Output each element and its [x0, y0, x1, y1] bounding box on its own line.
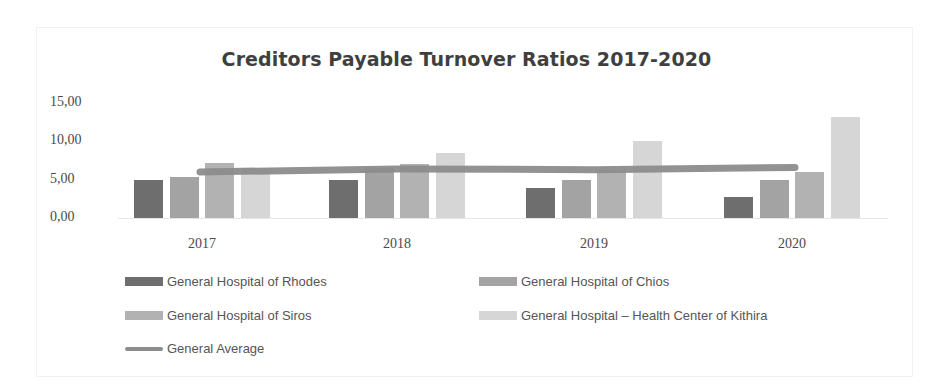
- legend-swatch-chios: [479, 277, 517, 286]
- legend-item-kithira: General Hospital – Health Center of Kith…: [479, 308, 767, 323]
- legend-swatch-rhodes: [125, 277, 163, 286]
- legend-label-kithira: General Hospital – Health Center of Kith…: [521, 308, 767, 323]
- legend-label-siros: General Hospital of Siros: [167, 308, 312, 323]
- average-line: [0, 0, 933, 390]
- legend-label-rhodes: General Hospital of Rhodes: [167, 274, 327, 289]
- x-tick-2017: 2017: [162, 236, 242, 252]
- legend-swatch-siros: [125, 311, 163, 320]
- legend-item-chios: General Hospital of Chios: [479, 274, 669, 289]
- legend-label-chios: General Hospital of Chios: [521, 274, 669, 289]
- legend-item-siros: General Hospital of Siros: [125, 308, 312, 323]
- x-tick-2020: 2020: [752, 236, 832, 252]
- legend-swatch-kithira: [479, 311, 517, 320]
- x-tick-2018: 2018: [357, 236, 437, 252]
- legend-label-average: General Average: [167, 341, 264, 356]
- legend-item-average: General Average: [125, 341, 264, 356]
- legend-item-rhodes: General Hospital of Rhodes: [125, 274, 327, 289]
- legend-swatch-average: [125, 347, 163, 351]
- x-tick-2019: 2019: [554, 236, 634, 252]
